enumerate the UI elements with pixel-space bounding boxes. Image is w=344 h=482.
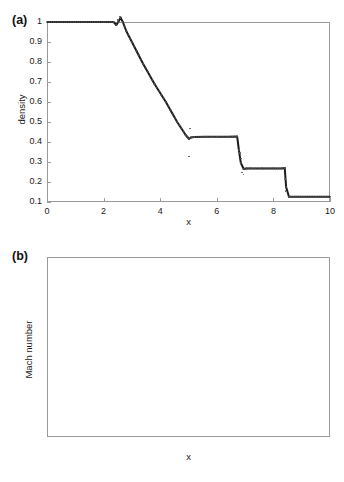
data-marker: [306, 196, 308, 198]
data-marker: [310, 196, 312, 198]
data-marker: [223, 136, 225, 138]
data-marker: [230, 136, 232, 138]
data-marker: [167, 105, 169, 107]
data-marker: [273, 168, 275, 170]
data-marker: [96, 21, 98, 23]
panel-a: (a) density 0.10.20.30.40.50.60.70.80.91…: [0, 0, 344, 241]
data-marker: [266, 168, 268, 170]
data-marker: [142, 63, 144, 65]
data-marker: [275, 168, 277, 170]
data-marker: [98, 21, 100, 23]
data-marker: [101, 21, 103, 23]
data-marker: [187, 136, 189, 138]
data-marker: [234, 136, 236, 138]
data-marker: [122, 21, 124, 23]
data-marker: [320, 196, 322, 198]
data-marker: [259, 168, 261, 170]
data-marker: [129, 38, 131, 40]
data-marker: [185, 134, 187, 136]
data-marker: [79, 21, 81, 23]
data-marker: [317, 196, 319, 198]
data-marker: [48, 21, 50, 23]
data-marker: [64, 21, 66, 23]
data-marker: [248, 168, 250, 170]
data-marker: [51, 21, 53, 23]
data-marker: [161, 94, 163, 96]
data-marker: [254, 168, 256, 170]
data-marker: [70, 21, 72, 23]
data-marker: [292, 196, 294, 198]
data-marker: [196, 136, 198, 138]
data-marker: [285, 186, 287, 188]
data-marker: [299, 196, 301, 198]
data-marker: [181, 128, 183, 130]
outlier-point: [117, 19, 119, 21]
data-marker: [202, 136, 204, 138]
data-marker: [240, 162, 242, 164]
data-marker: [288, 196, 290, 198]
data-marker: [295, 196, 297, 198]
data-marker: [277, 168, 279, 170]
data-marker: [250, 168, 252, 170]
data-marker: [270, 168, 272, 170]
data-marker: [94, 21, 96, 23]
data-marker: [198, 136, 200, 138]
data-marker: [158, 90, 160, 92]
data-marker: [83, 21, 85, 23]
data-marker: [190, 137, 192, 139]
data-marker: [281, 168, 283, 170]
data-marker: [124, 26, 126, 28]
data-marker: [133, 46, 135, 48]
data-marker: [107, 21, 109, 23]
data-marker: [174, 117, 176, 119]
data-marker: [252, 168, 254, 170]
data-marker: [75, 21, 77, 23]
data-marker: [125, 30, 127, 32]
panel-b-x-axis-label: x: [47, 451, 330, 462]
data-marker: [127, 34, 129, 36]
data-marker: [183, 131, 185, 133]
data-marker: [322, 196, 324, 198]
data-marker: [118, 21, 120, 23]
data-marker: [111, 21, 113, 23]
data-marker: [238, 149, 240, 151]
data-marker: [156, 87, 158, 89]
data-marker: [179, 124, 181, 126]
outlier-point: [284, 178, 286, 180]
data-marker: [205, 136, 207, 138]
data-marker: [207, 136, 209, 138]
data-marker: [151, 79, 153, 81]
data-marker: [216, 136, 218, 138]
outlier-point: [119, 16, 121, 18]
data-marker: [165, 101, 167, 103]
data-marker: [261, 168, 263, 170]
data-marker: [232, 136, 234, 138]
data-marker: [113, 21, 115, 23]
data-marker: [105, 21, 107, 23]
data-marker: [92, 21, 94, 23]
data-marker: [209, 136, 211, 138]
data-marker: [211, 136, 213, 138]
data-marker: [81, 21, 83, 23]
data-marker: [284, 167, 286, 169]
outlier-point: [239, 152, 241, 154]
data-marker: [264, 168, 266, 170]
data-marker: [68, 21, 70, 23]
data-marker: [149, 75, 151, 77]
data-marker: [131, 41, 133, 43]
data-marker: [55, 21, 57, 23]
data-marker: [268, 168, 270, 170]
data-marker: [170, 109, 172, 111]
data-marker: [301, 196, 303, 198]
data-marker: [176, 121, 178, 123]
data-marker: [140, 59, 142, 61]
data-marker: [308, 196, 310, 198]
data-marker: [313, 196, 315, 198]
data-marker: [66, 21, 68, 23]
data-marker: [145, 67, 147, 69]
data-marker: [297, 196, 299, 198]
data-marker: [136, 50, 138, 52]
data-marker: [163, 98, 165, 100]
data-line: [47, 18, 330, 197]
panel-b: (b) Mach number -0.100.10.20.30.40.50.60…: [0, 241, 344, 482]
